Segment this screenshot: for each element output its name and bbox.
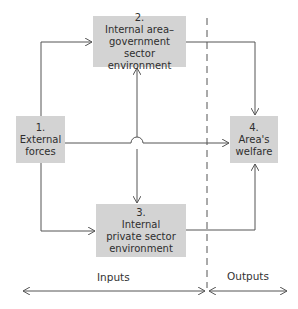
box-number: 1. — [36, 122, 46, 134]
box-text: environment — [108, 60, 172, 72]
box-private-sector: 3. Internal private sector environment — [96, 204, 186, 257]
box-text: welfare — [236, 146, 273, 158]
box-text: government sector — [93, 36, 186, 60]
box-government-sector: 2. Internal area– government sector envi… — [93, 16, 186, 67]
box-number: 2. — [135, 12, 145, 24]
box-number: 4. — [249, 122, 259, 134]
edge-government-to-welfare — [186, 42, 255, 115]
box-number: 3. — [136, 207, 146, 219]
box-text: forces — [25, 146, 55, 158]
edge-external-to-welfare — [65, 137, 229, 143]
box-text: Internal area– — [105, 24, 174, 36]
box-text: private sector — [106, 231, 176, 243]
box-text: Area's — [239, 134, 270, 146]
diagram-canvas: 1. External forces 2. Internal area– gov… — [0, 0, 298, 309]
box-text: environment — [109, 243, 173, 255]
box-external-forces: 1. External forces — [16, 116, 65, 163]
inputs-label: Inputs — [97, 271, 130, 283]
edge-private-to-welfare — [186, 164, 255, 230]
box-text: External — [20, 134, 62, 146]
edge-external-to-private — [41, 163, 95, 231]
edge-external-to-government — [41, 42, 92, 116]
box-text: Internal — [122, 219, 161, 231]
outputs-label: Outputs — [227, 270, 269, 282]
box-area-welfare: 4. Area's welfare — [230, 116, 278, 163]
